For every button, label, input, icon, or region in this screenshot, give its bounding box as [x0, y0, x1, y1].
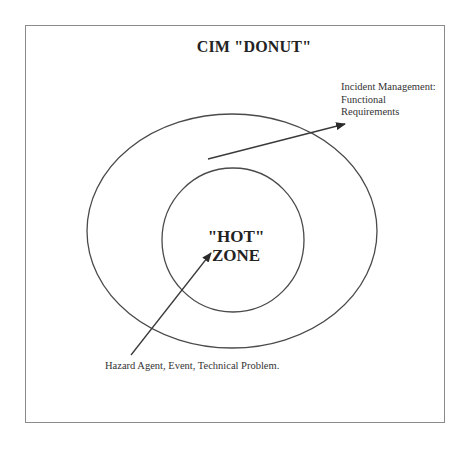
incident-management-line-3: Requirements [341, 106, 436, 119]
incident-management-label: Incident Management: Functional Requirem… [341, 81, 436, 119]
hot-zone-line-2: ZONE [196, 246, 276, 265]
hot-zone-label: "HOT" ZONE [196, 227, 276, 265]
donut-diagram [0, 0, 468, 450]
hot-zone-line-1: "HOT" [196, 227, 276, 246]
diagram-title: CIM "DONUT" [0, 38, 468, 56]
hazard-agent-label: Hazard Agent, Event, Technical Problem. [105, 360, 279, 371]
incident-management-line-2: Functional [341, 94, 436, 107]
incident-management-line-1: Incident Management: [341, 81, 436, 94]
